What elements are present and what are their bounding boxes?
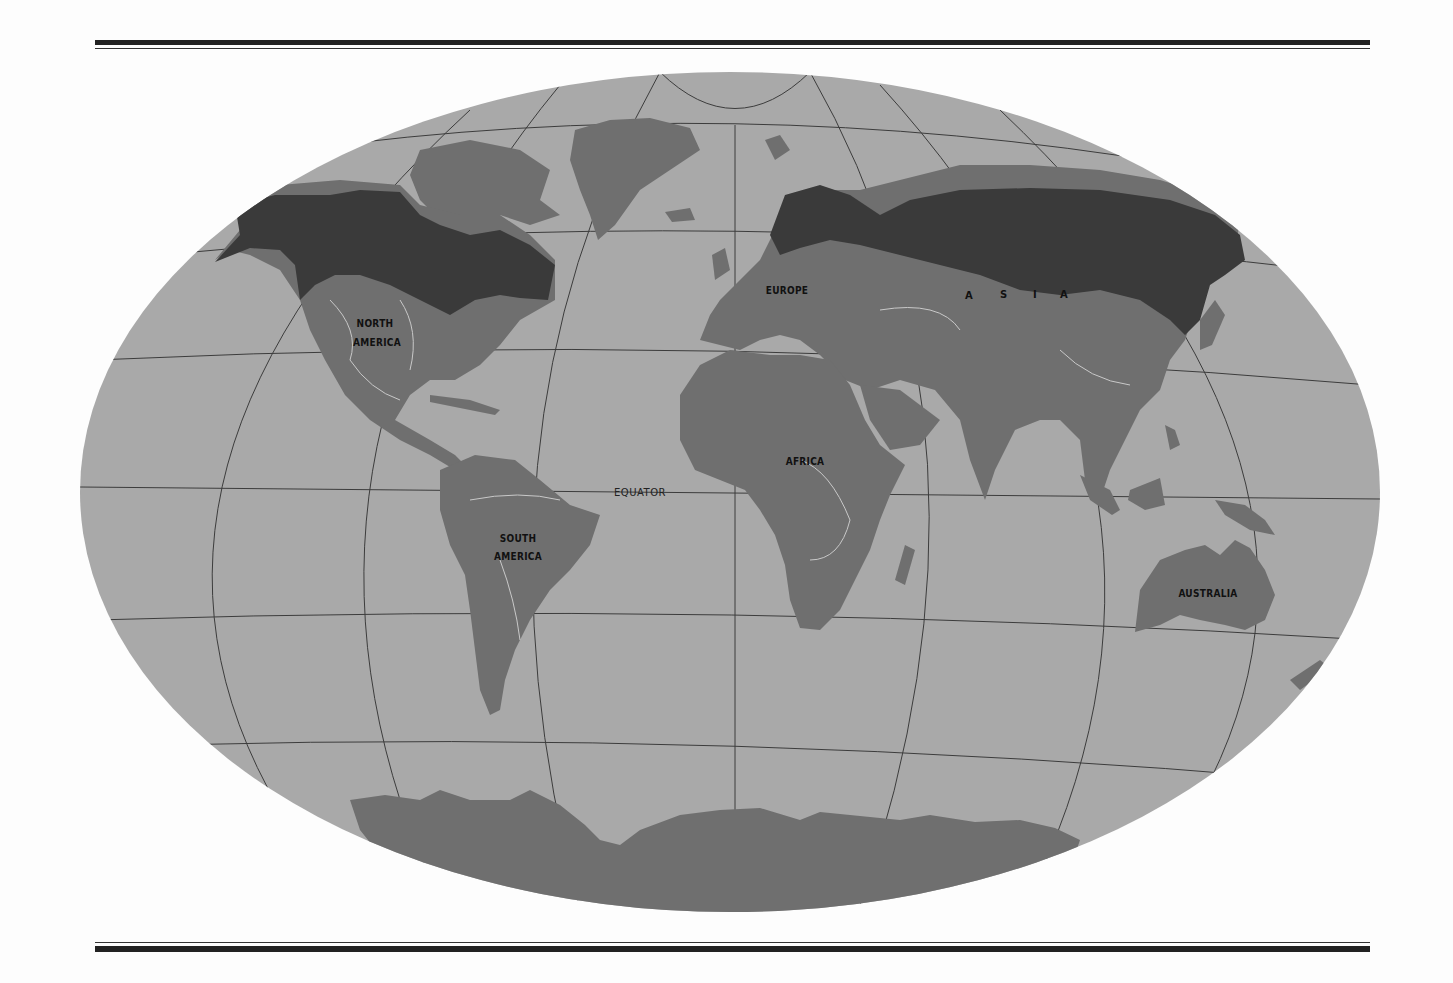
label-europe: EUROPE	[766, 285, 809, 296]
label-equator: EQUATOR	[614, 487, 666, 498]
bottom-rule-thick	[95, 946, 1370, 952]
label-asia-letter-2: S	[1000, 289, 1007, 300]
label-asia-letter-3: I	[1033, 289, 1037, 300]
label-asia-letter-4: A	[1060, 289, 1068, 300]
world-map: NORTH AMERICA SOUTH AMERICA EUROPE A S I…	[0, 0, 1453, 983]
label-south-america-2: AMERICA	[494, 551, 542, 562]
label-north-america-2: AMERICA	[353, 337, 401, 348]
label-south-america-1: SOUTH	[500, 533, 537, 544]
label-north-america-1: NORTH	[357, 318, 394, 329]
bottom-rule-thin	[95, 942, 1370, 943]
label-asia-letter-1: A	[965, 290, 973, 301]
label-africa: AFRICA	[786, 456, 825, 467]
label-australia: AUSTRALIA	[1178, 588, 1237, 599]
